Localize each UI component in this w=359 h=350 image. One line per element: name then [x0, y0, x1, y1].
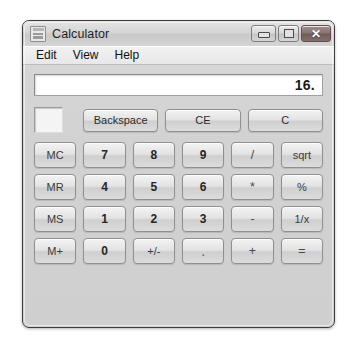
- clear-button[interactable]: C: [248, 109, 323, 132]
- multiply-button[interactable]: *: [231, 174, 273, 200]
- sign-toggle-button[interactable]: +/-: [133, 238, 175, 264]
- maximize-button[interactable]: [278, 25, 299, 42]
- calculator-body: 16. Backspace CE C MC 7 8 9 / sqrt MR 4 …: [23, 65, 334, 326]
- percent-button[interactable]: %: [281, 174, 323, 200]
- reciprocal-button[interactable]: 1/x: [281, 206, 323, 232]
- close-button[interactable]: ✕: [301, 25, 331, 42]
- digit-2-button[interactable]: 2: [133, 206, 175, 232]
- top-button-row: Backspace CE C: [34, 107, 323, 133]
- decimal-point-button[interactable]: .: [182, 238, 224, 264]
- add-button[interactable]: +: [231, 238, 273, 264]
- subtract-button[interactable]: -: [231, 206, 273, 232]
- minimize-button[interactable]: [251, 25, 276, 42]
- digit-3-button[interactable]: 3: [182, 206, 224, 232]
- equals-button[interactable]: =: [281, 238, 323, 264]
- keypad-grid: MC 7 8 9 / sqrt MR 4 5 6 * % MS 1 2 3 - …: [34, 142, 323, 264]
- backspace-button[interactable]: Backspace: [83, 109, 158, 132]
- menu-item-view[interactable]: View: [66, 47, 108, 64]
- digit-0-button[interactable]: 0: [83, 238, 125, 264]
- digit-6-button[interactable]: 6: [182, 174, 224, 200]
- minimize-icon: [258, 32, 270, 38]
- digit-5-button[interactable]: 5: [133, 174, 175, 200]
- close-icon: ✕: [311, 28, 321, 40]
- display-field[interactable]: 16.: [34, 74, 323, 96]
- calculator-window: Calculator ✕ Edit View Help 16. Backsp: [22, 20, 335, 328]
- clear-entry-button[interactable]: CE: [165, 109, 240, 132]
- memory-add-button[interactable]: M+: [34, 238, 76, 264]
- memory-indicator: [34, 107, 63, 133]
- maximize-icon: [284, 29, 294, 38]
- divide-button[interactable]: /: [231, 142, 273, 168]
- digit-7-button[interactable]: 7: [83, 142, 125, 168]
- sqrt-button[interactable]: sqrt: [281, 142, 323, 168]
- menu-item-help[interactable]: Help: [107, 47, 148, 64]
- memory-clear-button[interactable]: MC: [34, 142, 76, 168]
- digit-8-button[interactable]: 8: [133, 142, 175, 168]
- title-bar[interactable]: Calculator ✕: [23, 21, 334, 46]
- digit-1-button[interactable]: 1: [83, 206, 125, 232]
- memory-recall-button[interactable]: MR: [34, 174, 76, 200]
- menu-bar: Edit View Help: [23, 46, 334, 65]
- digit-4-button[interactable]: 4: [83, 174, 125, 200]
- display-value: 16.: [295, 77, 315, 93]
- digit-9-button[interactable]: 9: [182, 142, 224, 168]
- calculator-icon: [30, 26, 46, 42]
- menu-item-edit[interactable]: Edit: [29, 47, 66, 64]
- window-title: Calculator: [52, 27, 109, 41]
- window-controls: ✕: [251, 25, 331, 42]
- memory-store-button[interactable]: MS: [34, 206, 76, 232]
